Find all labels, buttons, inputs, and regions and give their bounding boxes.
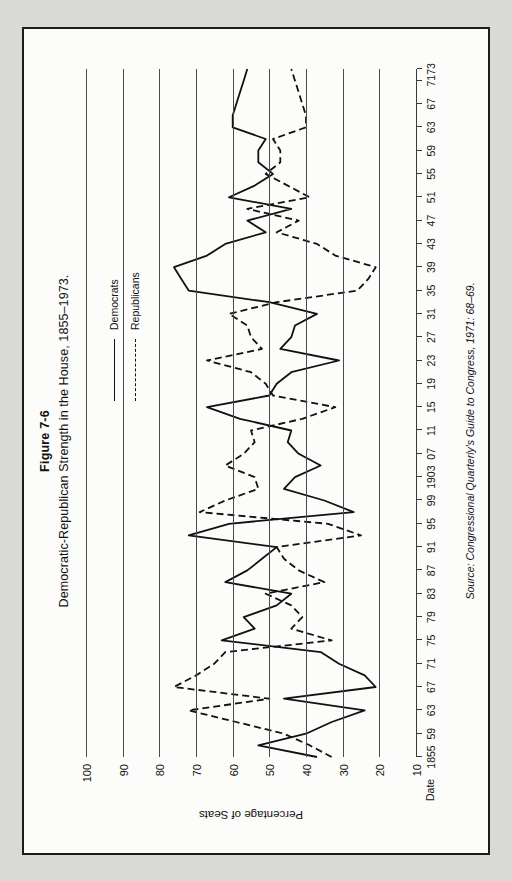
x-tick xyxy=(417,430,422,431)
source-note: Source: Congressional Quarterly's Guide … xyxy=(464,29,476,853)
x-tick-label: 47 xyxy=(425,215,437,227)
x-axis: 1855596367717579838791959919030711151923… xyxy=(416,69,417,757)
figure-rotation-wrapper: Figure 7-6 Democratic-Republican Strengt… xyxy=(24,29,488,853)
x-tick-label: 15 xyxy=(425,401,437,413)
x-tick-label: 63 xyxy=(425,121,437,133)
x-tick xyxy=(417,733,422,734)
x-tick xyxy=(417,196,422,197)
x-tick xyxy=(417,80,422,81)
y-gridline: 40 xyxy=(306,69,307,757)
x-tick xyxy=(417,243,422,244)
x-tick-label: 23 xyxy=(425,355,437,367)
x-axis-name-label: Date xyxy=(424,779,436,801)
x-tick xyxy=(417,68,422,69)
x-tick xyxy=(417,360,422,361)
y-gridline: 100 xyxy=(86,69,87,757)
y-axis-title: Percentage of Seats xyxy=(86,807,416,823)
figure-title: Democratic-Republican Strength in the Ho… xyxy=(57,29,71,853)
y-tick-label: 70 xyxy=(191,764,203,776)
x-tick-label: 59 xyxy=(425,728,437,740)
y-tick-label: 60 xyxy=(228,764,240,776)
x-tick xyxy=(417,709,422,710)
y-gridline: 20 xyxy=(379,69,380,757)
x-tick-label: 95 xyxy=(425,518,437,530)
x-tick-label: 59 xyxy=(425,145,437,157)
y-tick-label: 10 xyxy=(411,764,423,776)
x-tick-label: 07 xyxy=(425,448,437,460)
x-tick-label: 11 xyxy=(425,425,437,436)
y-axis-title-label: Percentage of Seats xyxy=(199,809,303,821)
x-tick-label: 99 xyxy=(425,495,437,507)
y-gridline: 50 xyxy=(269,69,270,757)
y-gridline: 30 xyxy=(343,69,344,757)
x-tick xyxy=(417,290,422,291)
x-tick xyxy=(417,686,422,687)
x-tick-label: 27 xyxy=(425,331,437,343)
x-tick xyxy=(417,663,422,664)
x-tick-label: 87 xyxy=(425,565,437,577)
x-tick xyxy=(417,616,422,617)
y-gridline: 60 xyxy=(233,69,234,757)
y-tick-label: 20 xyxy=(374,764,386,776)
x-tick xyxy=(417,336,422,337)
y-tick-label: 50 xyxy=(264,764,276,776)
series-republicans-path xyxy=(86,69,416,757)
chart-legend: Democrats Republicans xyxy=(108,272,150,401)
x-tick-label: 83 xyxy=(425,588,437,600)
x-tick xyxy=(417,499,422,500)
x-tick-label: 63 xyxy=(425,705,437,717)
x-tick-label: 31 xyxy=(425,308,437,320)
x-tick-label: 67 xyxy=(425,681,437,693)
x-tick xyxy=(417,546,422,547)
y-gridline: 80 xyxy=(159,69,160,757)
x-tick xyxy=(417,756,422,757)
legend-swatch-solid-icon xyxy=(114,339,115,401)
x-tick-label: 35 xyxy=(425,285,437,297)
x-tick-label: 39 xyxy=(425,261,437,273)
figure-frame: Figure 7-6 Democratic-Republican Strengt… xyxy=(22,27,490,855)
legend-label-democrats: Democrats xyxy=(108,279,120,330)
x-tick-label: 51 xyxy=(425,191,437,203)
x-tick xyxy=(417,453,422,454)
x-tick xyxy=(417,150,422,151)
legend-entry-democrats: Democrats xyxy=(108,272,120,401)
x-tick xyxy=(417,639,422,640)
x-tick-label: 43 xyxy=(425,238,437,250)
x-tick-label: 71 xyxy=(425,75,437,87)
figure-canvas: Figure 7-6 Democratic-Republican Strengt… xyxy=(24,29,488,853)
x-tick xyxy=(417,476,422,477)
y-tick-label: 40 xyxy=(301,764,313,776)
x-tick-label: 67 xyxy=(425,98,437,110)
x-tick-label: 75 xyxy=(425,635,437,647)
y-gridline: 90 xyxy=(123,69,124,757)
x-tick xyxy=(417,313,422,314)
x-tick-label: 55 xyxy=(425,168,437,180)
x-tick xyxy=(417,126,422,127)
plot-area: 100908070605040302010 xyxy=(86,69,416,757)
legend-swatch-dashed-icon xyxy=(135,339,136,401)
legend-entry-republicans: Republicans xyxy=(129,272,141,401)
screenshot-page: Figure 7-6 Democratic-Republican Strengt… xyxy=(0,0,512,881)
y-tick-label: 80 xyxy=(154,764,166,776)
x-tick-label: 71 xyxy=(425,658,437,670)
x-tick xyxy=(417,406,422,407)
x-tick xyxy=(417,569,422,570)
x-tick xyxy=(417,103,422,104)
y-gridline: 70 xyxy=(196,69,197,757)
x-tick xyxy=(417,266,422,267)
figure-number: Figure 7-6 xyxy=(38,29,52,853)
x-tick-label: 91 xyxy=(425,541,437,553)
x-tick-label: 1903 xyxy=(425,465,437,488)
y-tick-label: 30 xyxy=(338,764,350,776)
x-tick-label: 19 xyxy=(425,378,437,390)
legend-label-republicans: Republicans xyxy=(129,272,141,330)
x-tick xyxy=(417,523,422,524)
x-tick xyxy=(417,220,422,221)
y-tick-label: 90 xyxy=(118,764,130,776)
x-tick xyxy=(417,383,422,384)
x-tick xyxy=(417,593,422,594)
x-tick-label: 73 xyxy=(425,63,437,75)
x-tick-label: 1855 xyxy=(425,745,437,768)
y-tick-label: 100 xyxy=(81,764,93,782)
x-tick xyxy=(417,173,422,174)
